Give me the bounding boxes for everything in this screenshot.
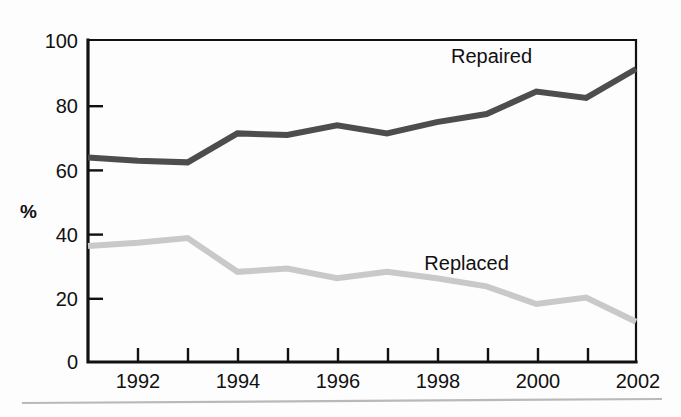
chart-figure: 0 20 40 60 80 100 % 1992 1994 1996 1998 … — [0, 0, 681, 417]
y-tick-label-20: 20 — [56, 288, 78, 310]
y-axis-tick-labels: 0 20 40 60 80 100 — [45, 30, 78, 373]
series-line-repaired — [88, 69, 636, 162]
y-tick-label-100: 100 — [45, 30, 78, 52]
x-tick-label-2002: 2002 — [616, 370, 661, 392]
series-label-repaired: Repaired — [451, 45, 532, 67]
series-label-replaced: Replaced — [424, 252, 509, 274]
plot-frame — [88, 40, 636, 362]
x-tick-marks — [138, 348, 588, 362]
y-tick-label-60: 60 — [56, 160, 78, 182]
x-tick-label-2000: 2000 — [516, 370, 561, 392]
y-tick-label-0: 0 — [67, 351, 78, 373]
footer-divider — [22, 399, 662, 403]
line-chart: 0 20 40 60 80 100 % 1992 1994 1996 1998 … — [0, 0, 681, 417]
x-tick-label-1996: 1996 — [316, 370, 361, 392]
x-tick-label-1992: 1992 — [116, 370, 161, 392]
series-line-replaced — [88, 238, 636, 322]
y-tick-label-80: 80 — [56, 95, 78, 117]
y-axis-title: % — [20, 201, 37, 222]
y-tick-marks — [88, 106, 103, 299]
x-tick-label-1998: 1998 — [416, 370, 461, 392]
x-axis-tick-labels: 1992 1994 1996 1998 2000 2002 — [116, 370, 661, 392]
x-tick-label-1994: 1994 — [216, 370, 261, 392]
y-tick-label-40: 40 — [56, 224, 78, 246]
plot-axes — [88, 40, 636, 362]
